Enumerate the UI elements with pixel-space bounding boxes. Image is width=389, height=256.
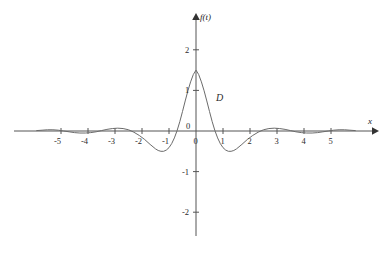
y-axis xyxy=(192,13,200,236)
x-tick-label: 0 xyxy=(194,137,198,146)
x-axis-label: x xyxy=(368,117,372,126)
x-tick-label: -1 xyxy=(162,137,169,146)
x-tick-label: 4 xyxy=(302,137,306,146)
figure-container: f(t) x D -5-4-3-2-1012345 21-1-20 xyxy=(0,0,389,256)
origin-label: 0 xyxy=(186,122,190,131)
x-tick-label: 1 xyxy=(221,137,225,146)
y-axis-label: f(t) xyxy=(200,13,211,22)
x-tick-label: 2 xyxy=(248,137,252,146)
x-tick-label: -5 xyxy=(54,137,61,146)
x-tick-label: 3 xyxy=(275,137,279,146)
x-tick-label: -4 xyxy=(81,137,88,146)
y-tick-label: 1 xyxy=(185,86,189,95)
x-tick-label: -3 xyxy=(108,137,115,146)
plot-canvas xyxy=(0,0,389,256)
y-tick-label: -2 xyxy=(182,208,189,217)
curve-label: D xyxy=(216,93,223,103)
x-tick-label: -2 xyxy=(135,137,142,146)
y-tick-label: 2 xyxy=(185,46,189,55)
y-tick-label: -1 xyxy=(182,168,189,177)
x-tick-label: 5 xyxy=(329,137,333,146)
